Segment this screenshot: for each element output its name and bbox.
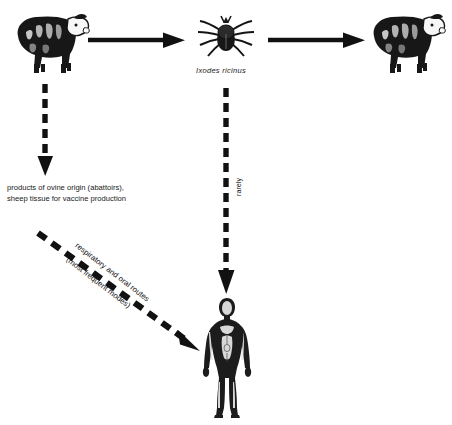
sheep-left-illustration bbox=[10, 6, 92, 76]
sheep-right-illustration bbox=[366, 6, 448, 76]
products-of-ovine-origin-label: products of ovine origin (abattoirs), sh… bbox=[7, 183, 126, 204]
tick-species-caption: Ixodes ricinus bbox=[196, 66, 246, 75]
edge-sheep-to-tick bbox=[88, 33, 185, 49]
tick-illustration bbox=[196, 10, 256, 62]
edge-sheep-to-products bbox=[38, 84, 54, 176]
human-illustration bbox=[198, 296, 256, 418]
transmission-cycle-diagram: Ixodes ricinus products of ovine origin … bbox=[0, 0, 452, 425]
tick-bite-route-label: rarely bbox=[234, 178, 243, 196]
edge-tick-to-sheep bbox=[268, 33, 365, 49]
products-label-line-1: products of ovine origin (abattoirs), bbox=[7, 183, 126, 194]
products-label-line-2: sheep tissue for vaccine production bbox=[7, 194, 126, 205]
edge-tick-to-human bbox=[218, 88, 235, 294]
